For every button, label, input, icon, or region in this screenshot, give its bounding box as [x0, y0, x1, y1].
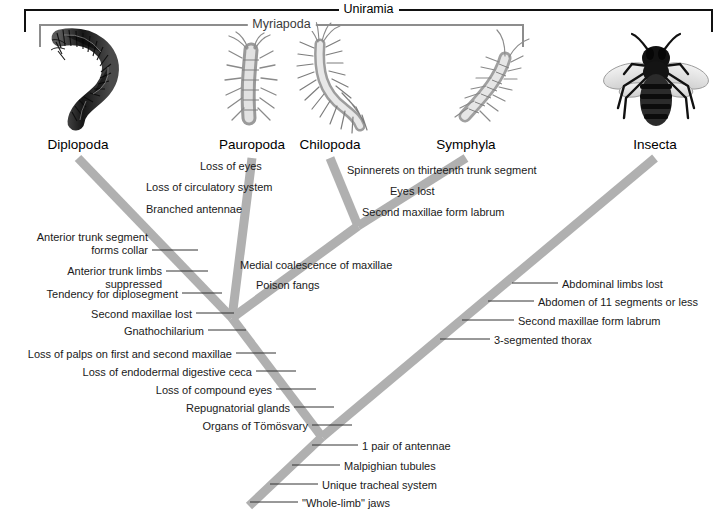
character-label-pauropoda-apomorphies-2: Branched antennae [146, 203, 242, 215]
character-label-uniramia-apomorphies-1: Malpighian tubules [344, 460, 436, 472]
character-label-chilopoda-symphyla-apomorphies-0: Medial coalescence of maxillae [240, 259, 392, 271]
character-label-myriapoda-apomorphies-4: Organs of Tömösvary [0, 420, 308, 432]
taxon-label-chilopoda: Chilopoda [300, 137, 361, 152]
character-label-symphyla-apomorphies-0: Spinnerets on thirteenth trunk segment [347, 164, 537, 176]
taxon-label-pauropoda: Pauropoda [219, 137, 285, 152]
bracket-label-myriapoda: Myriapoda [247, 17, 315, 31]
character-label-chilopoda-symphyla-apomorphies-1: Poison fangs [256, 279, 320, 291]
character-label-myriapoda-apomorphies-1: Loss of endodermal digestive ceca [0, 366, 252, 378]
branch-myriapod-node [232, 226, 358, 318]
character-label-myriapoda-apomorphies-0: Loss of palps on first and second maxill… [0, 348, 232, 360]
bracket-label-uniramia: Uniramia [338, 2, 398, 16]
character-label-diplopoda-apomorphies-6: Gnathochilarium [0, 325, 204, 337]
branch-root-stem [249, 437, 322, 506]
character-label-myriapoda-apomorphies-3: Repugnatorial glands [0, 402, 290, 414]
character-label-uniramia-apomorphies-2: Unique tracheal system [322, 479, 437, 491]
character-label-diplopoda-apomorphies-4: Tendency for diplosegment [0, 288, 178, 300]
cladogram-figure: UniramiaMyriapoda DiplopodaPauropodaChil… [0, 0, 725, 519]
character-label-insecta-apomorphies-0: Abdominal limbs lost [562, 278, 663, 290]
taxon-label-symphyla: Symphyla [436, 137, 495, 152]
taxon-label-diplopoda: Diplopoda [48, 137, 109, 152]
character-label-insecta-apomorphies-3: 3-segmented thorax [494, 334, 592, 346]
character-label-diplopoda-apomorphies-2: Anterior trunk limbs [0, 265, 162, 277]
character-label-diplopoda-apomorphies-5: Second maxillae lost [0, 308, 192, 320]
character-label-diplopoda-apomorphies-1: forms collar [0, 244, 148, 256]
character-label-uniramia-apomorphies-3: "Whole-limb" jaws [302, 497, 390, 509]
character-label-insecta-apomorphies-2: Second maxillae form labrum [518, 315, 660, 327]
character-label-symphyla-apomorphies-2: Second maxillae form labrum [362, 206, 504, 218]
character-label-pauropoda-apomorphies-1: Loss of circulatory system [146, 181, 273, 193]
taxon-label-insecta: Insecta [633, 137, 677, 152]
character-label-myriapoda-apomorphies-2: Loss of compound eyes [0, 384, 272, 396]
character-label-pauropoda-apomorphies-0: Loss of eyes [200, 160, 262, 172]
character-label-uniramia-apomorphies-0: 1 pair of antennae [362, 440, 451, 452]
character-label-diplopoda-apomorphies-0: Anterior trunk segment [0, 231, 148, 243]
character-label-insecta-apomorphies-1: Abdomen of 11 segments or less [538, 296, 698, 308]
character-label-symphyla-apomorphies-1: Eyes lost [390, 185, 435, 197]
